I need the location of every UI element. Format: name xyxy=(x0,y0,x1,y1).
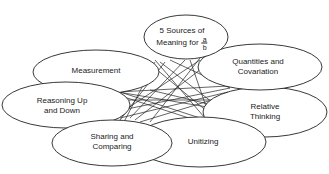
quantities-line1: Quantities and xyxy=(232,57,284,67)
center-line2: Meaning for xyxy=(156,38,198,47)
fraction-a-over-b: a b xyxy=(202,36,208,51)
sharing-line1: Sharing and xyxy=(90,132,133,142)
reasoning-line2: and Down xyxy=(37,106,88,116)
node-center-label: 5 Sources of Meaning for a b xyxy=(156,26,207,51)
node-sharing-label: Sharing and Comparing xyxy=(90,132,133,152)
center-line1: 5 Sources of xyxy=(156,26,207,36)
node-quantities-label: Quantities and Covariation xyxy=(232,57,284,77)
quantities-line2: Covariation xyxy=(232,67,284,77)
sharing-line2: Comparing xyxy=(90,142,133,152)
node-measurement-label: Measurement xyxy=(72,66,121,76)
unitizing-line1: Unitizing xyxy=(188,137,219,147)
center-line2-row: Meaning for a b xyxy=(156,36,207,51)
reasoning-line1: Reasoning Up xyxy=(37,96,88,106)
relative-line1: Relative xyxy=(250,102,280,112)
relative-line2: Thinking xyxy=(250,112,280,122)
node-relative-label: Relative Thinking xyxy=(250,102,280,122)
node-reasoning-label: Reasoning Up and Down xyxy=(37,96,88,116)
fraction-numerator: a xyxy=(202,36,208,44)
measurement-line1: Measurement xyxy=(72,66,121,76)
sources-of-meaning-diagram: 5 Sources of Meaning for a b Quantities … xyxy=(0,0,329,174)
node-unitizing-label: Unitizing xyxy=(188,137,219,147)
fraction-denominator: b xyxy=(203,44,207,51)
